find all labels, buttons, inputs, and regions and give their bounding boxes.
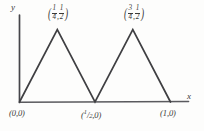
x-axis-line <box>20 102 189 103</box>
midpoint-close-paren: ) <box>99 110 102 120</box>
endpoint-coordinate-label: (1,0) <box>160 109 176 118</box>
peak-1-coordinate-label: ( 1 4 , 1 2 ) <box>41 5 75 21</box>
peak-2-x-numerator: 3 <box>128 5 133 12</box>
peak-2-open-paren: ( <box>124 6 127 21</box>
peak-2-coordinate-label: ( 3 4 , 1 2 ) <box>117 5 151 21</box>
peak-2-y-fraction: 1 2 <box>135 5 140 21</box>
triangular-wave-curve <box>20 30 171 103</box>
peak-1-close-paren: ) <box>65 6 68 21</box>
peak-1-open-paren: ( <box>48 6 51 21</box>
peak-2-close-paren: ) <box>141 6 144 21</box>
midpoint-coordinate-label: (1/2,0) <box>81 109 101 119</box>
peak-2-x-denominator: 4 <box>128 14 133 21</box>
x-axis-label: x <box>187 92 191 101</box>
midpoint-numerator: 1 <box>84 108 87 115</box>
figure-container: y x ( 1 4 , 1 2 ) ( 3 4 <box>0 0 204 131</box>
origin-coordinate-label: (0,0) <box>9 109 25 118</box>
peak-2-y-numerator: 1 <box>135 5 140 12</box>
peak-1-y-fraction: 1 2 <box>59 5 64 21</box>
peak-1-y-denominator: 2 <box>59 14 64 21</box>
peak-1-y-numerator: 1 <box>59 5 64 12</box>
peak-1-x-denominator: 4 <box>52 14 57 21</box>
y-axis-label: y <box>11 3 15 12</box>
peak-2-y-denominator: 2 <box>135 14 140 21</box>
peak-1-x-numerator: 1 <box>52 5 57 12</box>
